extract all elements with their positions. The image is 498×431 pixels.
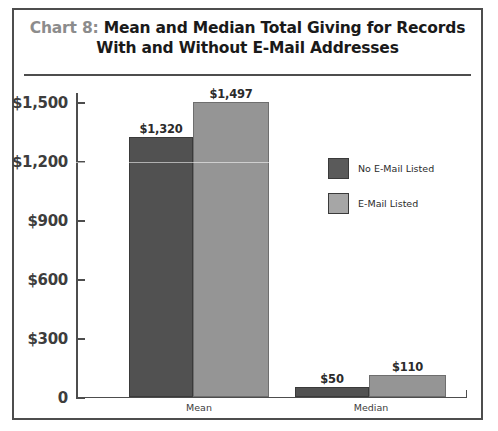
- bar-median-no-email: [295, 387, 369, 397]
- bar-value-label: $110: [392, 360, 423, 374]
- y-axis-label: $300: [27, 330, 68, 348]
- chart-title: Chart 8: Mean and Median Total Giving fo…: [14, 18, 481, 58]
- plot-area: 0$300$600$900$1,200$1,500 $1,320$1,497$5…: [76, 93, 467, 398]
- x-axis-line: [76, 397, 467, 399]
- y-axis-line: [76, 93, 78, 398]
- x-axis-label-median: Median: [354, 402, 389, 413]
- y-axis-tick: [76, 161, 85, 163]
- y-axis-tick: [76, 279, 85, 281]
- chart-title-prefix: Chart 8:: [30, 19, 99, 37]
- y-axis-label: $1,500: [12, 94, 68, 112]
- bar-mean-email: [193, 102, 269, 397]
- legend-swatch: [328, 193, 349, 214]
- chart-figure: Chart 8: Mean and Median Total Giving fo…: [12, 8, 483, 420]
- chart-title-line-1: Chart 8: Mean and Median Total Giving fo…: [14, 18, 481, 38]
- legend-swatch: [328, 158, 349, 179]
- bar-median-email: [369, 375, 446, 397]
- y-axis-label: 0: [58, 389, 68, 407]
- chart-title-line-2: With and Without E-Mail Addresses: [14, 38, 481, 58]
- y-axis-tick: [76, 338, 85, 340]
- y-axis-label: $600: [27, 271, 68, 289]
- x-axis-end-tick: [466, 390, 468, 398]
- chart-title-main: Mean and Median Total Giving for Records: [99, 19, 466, 37]
- legend-label: E-Mail Listed: [358, 198, 418, 209]
- bar-value-label: $50: [320, 372, 343, 386]
- title-divider: [24, 74, 471, 76]
- bar-value-label: $1,320: [139, 122, 182, 136]
- legend-item-no-email-listed[interactable]: No E-Mail Listed: [328, 157, 434, 180]
- legend-item-email-listed[interactable]: E-Mail Listed: [328, 192, 434, 215]
- y-axis-label: $900: [27, 212, 68, 230]
- x-axis-label-mean: Mean: [186, 402, 212, 413]
- y-axis-tick: [76, 397, 85, 399]
- y-axis-label: $1,200: [12, 153, 68, 171]
- chart-legend: No E-Mail ListedE-Mail Listed: [328, 157, 434, 227]
- bar-value-label: $1,497: [209, 87, 252, 101]
- bar-mean-no-email: [129, 137, 193, 397]
- legend-label: No E-Mail Listed: [358, 163, 434, 174]
- y-axis-tick: [76, 220, 85, 222]
- y-axis-tick: [76, 102, 85, 104]
